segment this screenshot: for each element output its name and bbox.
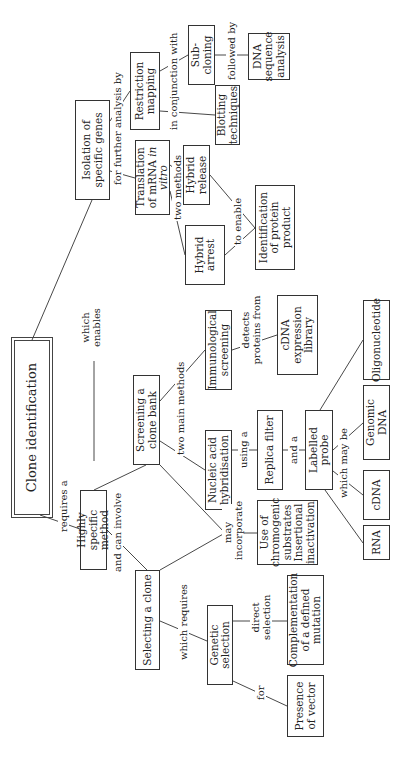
node-hybrid-release: Hybrid release xyxy=(183,145,210,205)
node-immunological-screening: Immunological screening xyxy=(205,310,232,390)
node-replica-filter: Replica filter xyxy=(257,410,283,490)
link-direct-selection: direct selection xyxy=(250,594,272,641)
node-genomic-dna: Genomic DNA xyxy=(363,385,390,460)
node-restriction-mapping: Restriction mapping xyxy=(130,52,160,130)
link-requires-a: requires a xyxy=(58,479,69,533)
link-for: for xyxy=(255,684,266,701)
link-and-can-involve: and can involve xyxy=(112,492,123,573)
node-oligonucleotide: Oligonucleotide xyxy=(363,300,390,380)
node-translation-mrna: Translation of mRNA in vitro xyxy=(135,140,170,215)
link-which-may-be: which may be xyxy=(338,427,349,499)
link-for-further-analysis-by: for further analysis by xyxy=(112,71,123,186)
node-presence-of-vector: Presence of vector xyxy=(287,675,324,737)
link-which-enables: which enables xyxy=(80,304,102,351)
node-screening-clone-bank: Screening a clone bank xyxy=(133,375,160,465)
node-selecting-a-clone: Selecting a clone xyxy=(135,570,160,670)
link-followed-by: followed by xyxy=(226,21,237,81)
link-in-conjunction-with: in conjunction with xyxy=(168,31,179,131)
node-highly-specific-method: Highly specific method xyxy=(80,490,107,570)
link-may-incorporate: may incorporate xyxy=(222,504,244,561)
link-using-a: using a xyxy=(238,430,249,469)
node-labelled-probe: Labelled probe xyxy=(305,410,333,490)
concept-map-diagram: Clone identification Highly specific met… xyxy=(0,0,411,761)
node-rna: RNA xyxy=(363,525,390,560)
node-genetic-selection: Genetic selection xyxy=(207,605,233,685)
link-detects-proteins-from: detects proteins from xyxy=(240,294,262,366)
link-which-requires: which requires xyxy=(178,583,189,661)
node-chromogenic-substrates: Use of chromogenic substrates Insertiona… xyxy=(257,500,318,565)
node-blotting-techniques: Blotting techniques xyxy=(215,85,240,145)
node-cdna-expression-library: cDNA expression library xyxy=(277,295,318,375)
node-sub-cloning: Sub-cloning xyxy=(188,25,215,85)
node-dna-sequence-analysis: DNA sequence analysis xyxy=(248,33,290,80)
node-complementation: Complementation of a defined mutation xyxy=(287,575,324,665)
node-isolation-specific-genes: Isolation of specific genes xyxy=(75,100,110,200)
node-clone-identification: Clone identification xyxy=(14,340,50,515)
link-two-main-methods: two main methods xyxy=(175,361,186,456)
node-cdna: cDNA xyxy=(363,470,390,520)
node-nucleic-acid-hybridisation: Nucleic acid hybridisation xyxy=(205,430,232,510)
link-to-enable: to enable xyxy=(232,197,243,246)
link-and-a: and a xyxy=(288,435,299,465)
node-hybrid-arrest: Hybrid arrest xyxy=(185,225,225,285)
link-two-methods: two methods xyxy=(172,154,183,221)
node-identification-protein-product: Identification of protein product xyxy=(255,185,295,270)
